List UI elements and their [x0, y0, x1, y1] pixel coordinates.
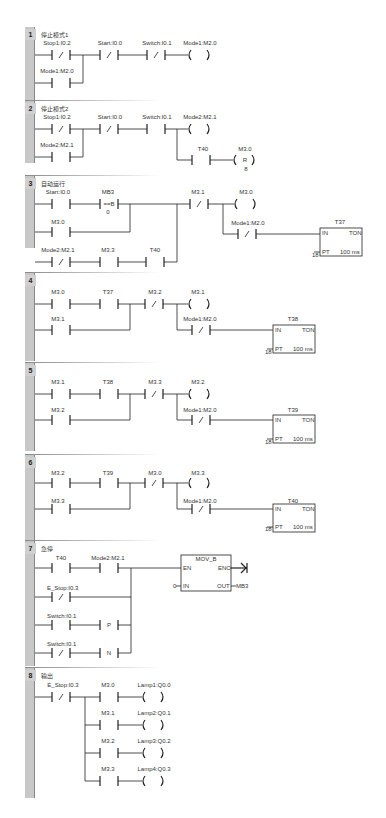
compare-operator: ==B	[103, 201, 114, 207]
mov-eno: ENO	[218, 565, 231, 571]
mov-out: OUT	[217, 583, 230, 589]
timer-type: TON	[349, 230, 362, 236]
mov-in: IN	[183, 583, 189, 589]
timer-pt: PT	[275, 436, 283, 442]
timer-base: 100 ms	[340, 249, 360, 255]
positive-edge-label: P	[107, 622, 111, 628]
timer-pt: PT	[275, 346, 283, 352]
ladder-wiring	[0, 0, 386, 818]
timer-base: 100 ms	[293, 436, 313, 442]
timer-in: IN	[275, 327, 281, 333]
timer-type: TON	[302, 417, 315, 423]
timer-in: IN	[275, 506, 281, 512]
timer-type: TON	[302, 327, 315, 333]
timer-in: IN	[275, 417, 281, 423]
timer-pt: PT	[275, 524, 283, 530]
ladder-diagram: 1 停止模式1 Stop1:I0.2 Start:I0.0 Switch:I0.…	[0, 0, 386, 818]
timer-base: 100 ms	[293, 524, 313, 530]
mov-box-title: MOV_B	[195, 556, 216, 562]
timer-in: IN	[322, 230, 328, 236]
timer-pt: PT	[322, 249, 330, 255]
timer-type: TON	[302, 506, 315, 512]
mov-en: EN	[183, 565, 191, 571]
reset-coil-type: R	[243, 157, 247, 163]
negative-edge-label: N	[107, 650, 111, 656]
timer-base: 100 ms	[293, 346, 313, 352]
